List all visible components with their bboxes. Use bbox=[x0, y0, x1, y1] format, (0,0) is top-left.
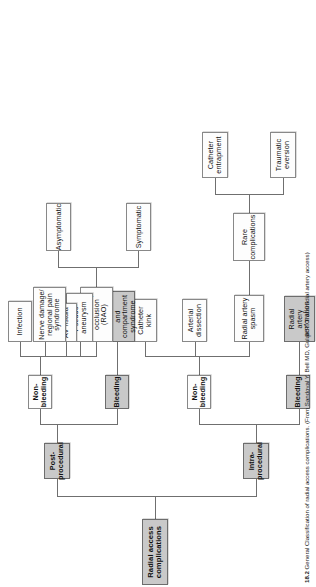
edge-spine-intra bbox=[256, 479, 257, 497]
edge-to-av-fistula bbox=[66, 342, 67, 357]
edge-spine-post bbox=[57, 479, 58, 497]
node-traumatic-eversion[interactable]: Traumatic eversion bbox=[270, 132, 296, 178]
edge-bleeding-intra-out bbox=[299, 342, 300, 375]
figure-caption-text: General Classification of radial access … bbox=[303, 252, 310, 569]
node-symptomatic[interactable]: Symptomatic bbox=[126, 203, 151, 251]
edge-to-catheter-kink bbox=[145, 342, 146, 357]
edge-intra-nonbleeding bbox=[199, 409, 200, 425]
edge-post-nonbleeding bbox=[40, 409, 41, 425]
figure-number: 18.2 bbox=[303, 571, 310, 583]
node-asymptomatic[interactable]: Asymptomatic bbox=[46, 203, 71, 251]
edge-intra-spine bbox=[199, 424, 299, 425]
edge-to-nerve-damage bbox=[45, 342, 46, 357]
edge-to-ra-spasm bbox=[249, 342, 250, 357]
edge-post-out bbox=[57, 425, 58, 443]
node-intra-procedural[interactable]: Intra-procedural bbox=[243, 443, 269, 479]
node-root[interactable]: Radial access complications bbox=[142, 519, 168, 585]
node-catheter-entrapment[interactable]: Catheter entrapment bbox=[202, 132, 228, 178]
edge-to-infection bbox=[20, 342, 21, 357]
node-bleeding-post[interactable]: Bleeding bbox=[105, 375, 129, 409]
edge-spasm-rare bbox=[249, 261, 250, 295]
edge-post-spine bbox=[40, 424, 117, 425]
edge-root-spine bbox=[57, 496, 256, 497]
edge-to-traumatic-eversion bbox=[283, 178, 284, 195]
edge-to-pseudoaneurysm bbox=[80, 342, 81, 357]
edge-to-rao bbox=[96, 342, 97, 357]
edge-nonbleeding-intra-out bbox=[199, 357, 200, 375]
figure-caption: 18.2 General Classification of radial ac… bbox=[303, 5, 310, 583]
edge-bleeding-post-out bbox=[117, 342, 118, 375]
edge-nonbleeding-post-spine bbox=[20, 356, 96, 357]
node-radial-artery-spasm[interactable]: Radial artery spasm bbox=[234, 295, 264, 342]
edge-nonbleeding-post-out bbox=[40, 357, 41, 375]
edge-to-arterial-dissection bbox=[195, 342, 196, 357]
node-non-bleeding-intra[interactable]: Non-bleeding bbox=[187, 375, 211, 409]
node-non-bleeding-post[interactable]: Non-bleeding bbox=[28, 375, 52, 409]
edge-nonbleeding-intra-spine bbox=[145, 356, 249, 357]
node-nerve-damage[interactable]: Nerve damage/ regional pain syndrome bbox=[33, 287, 66, 342]
edge-to-catheter-entrapment bbox=[215, 178, 216, 195]
edge-post-bleeding bbox=[117, 409, 118, 425]
edge-intra-out bbox=[256, 425, 257, 443]
node-infection[interactable]: Infection bbox=[8, 301, 32, 342]
node-post-procedural[interactable]: Post-procedural bbox=[44, 443, 70, 479]
node-arterial-dissection[interactable]: Arterial dissection bbox=[182, 299, 207, 342]
edge-to-asymptomatic bbox=[58, 251, 59, 268]
edge-rao-out bbox=[96, 268, 97, 287]
edge-rare-spine bbox=[215, 194, 283, 195]
edge-rao-spine bbox=[58, 267, 138, 268]
edge-to-symptomatic bbox=[138, 251, 139, 268]
node-rare-complications[interactable]: Rare complications bbox=[233, 213, 265, 261]
edge-intra-bleeding bbox=[299, 409, 300, 425]
edge-rare-out bbox=[249, 195, 250, 213]
edge-root-out bbox=[155, 497, 156, 519]
flowchart-canvas: Radial access complications Intra-proced… bbox=[0, 0, 310, 587]
